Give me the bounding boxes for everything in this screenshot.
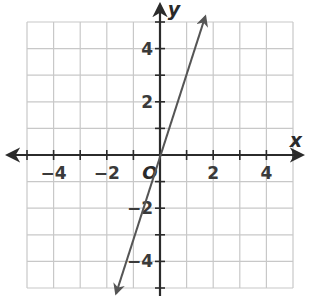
x-tick-label: −4	[41, 163, 67, 183]
x-tick-label: 4	[260, 163, 272, 183]
x-axis-label: x	[289, 129, 303, 151]
y-tick-label: 4	[141, 39, 153, 59]
x-tick-label: 2	[207, 163, 219, 183]
x-tick-label: −2	[94, 163, 120, 183]
y-tick-label: −2	[127, 198, 153, 218]
y-tick-label: −4	[127, 251, 153, 271]
coordinate-plane: −4−224−4−224xyO	[0, 0, 310, 296]
y-tick-label: 2	[141, 92, 153, 112]
y-axis-label: y	[168, 0, 182, 20]
